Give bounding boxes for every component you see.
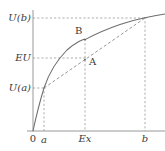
chord-line-a-to-b bbox=[44, 18, 145, 88]
x-axis-label-a: a bbox=[37, 135, 51, 145]
y-axis-label-u-a: U(a) bbox=[9, 83, 31, 93]
point-marker-b bbox=[84, 39, 86, 41]
x-axis-label-ex: Ex bbox=[74, 134, 96, 144]
y-axis-label-eu: EU bbox=[15, 53, 31, 63]
point-label-a: A bbox=[89, 57, 96, 67]
y-axis-label-u-b: U(b) bbox=[8, 13, 31, 23]
point-marker-a bbox=[84, 59, 86, 61]
x-axis-label-b: b bbox=[139, 134, 151, 144]
utility-function-figure: U(b) EU U(a) 0 a Ex b B A bbox=[0, 0, 165, 151]
point-label-b: B bbox=[75, 26, 82, 36]
